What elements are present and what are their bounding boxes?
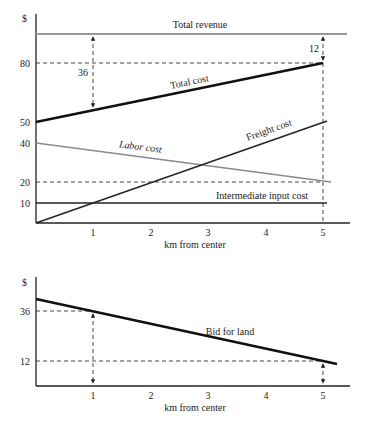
top-y-axis-label: $: [22, 13, 27, 24]
label-labor-cost: Labor cost: [117, 138, 162, 155]
top-chart: $ 80 50 40 20 10 1 2 3 4 5 km from cente…: [20, 13, 350, 250]
xtick-2: 2: [149, 390, 154, 401]
figure: $ 80 50 40 20 10 1 2 3 4 5 km from cente…: [0, 0, 365, 426]
bottom-y-axis-label: $: [22, 277, 27, 288]
label-total-revenue: Total revenue: [173, 19, 228, 30]
xtick-3: 3: [206, 390, 211, 401]
ytick-40: 40: [20, 138, 30, 149]
bottom-chart: $ 36 12 1 2 3 4 5 km from center Bid for…: [20, 277, 350, 413]
xtick-4: 4: [264, 390, 269, 401]
bottom-x-axis-label: km from center: [164, 402, 226, 413]
xtick-4: 4: [264, 227, 269, 238]
label-bid-for-land: Bid for land: [206, 326, 254, 337]
label-gap-36: 36: [78, 67, 88, 78]
ytick-80: 80: [20, 58, 30, 69]
series-labor-cost: [36, 143, 331, 182]
xtick-3: 3: [206, 227, 211, 238]
ytick-20: 20: [20, 177, 30, 188]
series-bid-for-land: [36, 299, 337, 364]
xtick-1: 1: [91, 390, 96, 401]
ytick-50: 50: [20, 117, 30, 128]
xtick-5: 5: [321, 227, 326, 238]
label-freight-cost: Freight cost: [245, 117, 294, 143]
ytick-10: 10: [20, 198, 30, 209]
top-x-axis-label: km from center: [164, 239, 226, 250]
label-gap-12: 12: [309, 43, 319, 54]
ytick-36: 36: [20, 306, 30, 317]
series-freight-cost: [36, 121, 327, 223]
label-intermediate-input-cost: Intermediate input cost: [216, 190, 308, 201]
xtick-5: 5: [321, 390, 326, 401]
xtick-1: 1: [91, 227, 96, 238]
ytick-12: 12: [20, 356, 30, 367]
xtick-2: 2: [149, 227, 154, 238]
